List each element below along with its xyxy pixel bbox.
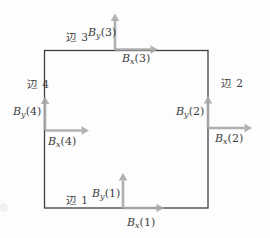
by-label-2: By(2) — [176, 105, 204, 118]
edge-label-4: 辺 4 — [27, 78, 50, 91]
arrow-bx-1-head — [157, 204, 165, 213]
square-edge-field-diagram: 辺 1By(1)Bx(1)辺 2By(2)Bx(2)辺 3By(3)Bx(3)辺… — [0, 0, 270, 238]
edge-label-1: 辺 1 — [66, 194, 89, 207]
edge-label-3: 辺 3 — [66, 31, 89, 44]
diagram-canvas — [0, 0, 270, 238]
by-label-3: By(3) — [88, 26, 116, 39]
scan-artifact — [0, 203, 8, 212]
arrow-by-4-head — [41, 97, 50, 105]
arrow-by-3-head — [111, 14, 120, 22]
bx-label-2: Bx(2) — [215, 132, 243, 145]
arrow-bx-4-head — [82, 126, 90, 135]
by-label-4: By(4) — [13, 105, 41, 118]
bx-label-1: Bx(1) — [127, 216, 155, 229]
arrow-bx-2-head — [245, 124, 253, 133]
bx-label-4: Bx(4) — [48, 135, 76, 148]
bx-label-3: Bx(3) — [122, 52, 150, 65]
by-label-1: By(1) — [92, 187, 120, 200]
arrow-bx-3-head — [151, 45, 159, 54]
arrow-by-1-head — [119, 173, 128, 181]
edge-label-2: 辺 2 — [221, 77, 244, 90]
arrow-by-2-head — [204, 96, 213, 104]
